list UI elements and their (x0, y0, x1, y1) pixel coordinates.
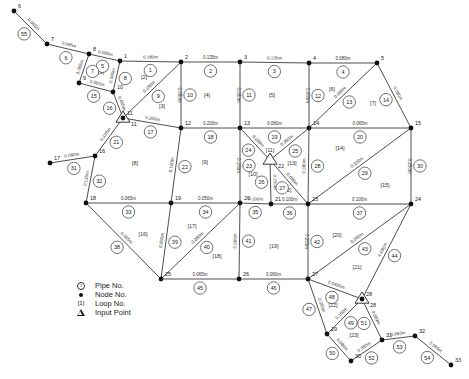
pipe-network-diagram: 0.180m0.135m0.135m0.080m0.080m0.065m0.06… (0, 0, 469, 379)
pipe-number-badge: 26 (255, 176, 267, 188)
pipe-number-badge: 15 (87, 90, 99, 102)
svg-text:47: 47 (306, 306, 312, 312)
pipe-number-badge: 22 (179, 160, 191, 172)
pipe-diameter-label: 0.050m (198, 196, 213, 201)
node-25 (159, 277, 164, 282)
pipe-number-badge: 21 (110, 136, 122, 148)
pipe-number-badge: 8 (119, 72, 131, 84)
pipe-diameter-label: 0.080m (349, 231, 364, 244)
loop-label: [7] (370, 100, 377, 106)
svg-text:52: 52 (368, 355, 374, 361)
node-18 (84, 201, 89, 206)
node-number-label: 12 (185, 120, 191, 126)
node-number-label: 26 (243, 271, 249, 277)
pipe-diameter-label: 0.100m (282, 197, 297, 202)
node-10 (111, 90, 116, 95)
node-14 (307, 126, 312, 131)
pipe-number-badge: 11 (243, 89, 255, 101)
pipe-28 (308, 128, 309, 204)
loop-label: [14] (335, 145, 345, 151)
svg-text:49: 49 (348, 320, 354, 326)
node-number-label: 9 (83, 75, 86, 81)
node-2 (179, 60, 184, 65)
loop-label: [16] (138, 231, 148, 237)
svg-text:44: 44 (391, 253, 397, 259)
loop-label: [23] (349, 332, 359, 338)
pipe-number-badge: 54 (421, 351, 433, 363)
node-number-label: 8 (93, 46, 96, 52)
pipe-35 (240, 203, 271, 204)
node-4 (307, 61, 312, 66)
pipe-diameter-label: 0.065m (428, 340, 443, 353)
node-number-label: 4 (313, 55, 316, 61)
svg-text:42: 42 (314, 239, 320, 245)
pipe-number-badge: 17 (144, 126, 156, 138)
node-1 (118, 59, 123, 64)
svg-text:51: 51 (361, 320, 367, 326)
pipe-number-badge: 32 (93, 175, 105, 187)
svg-text:12: 12 (315, 93, 321, 99)
pipe-number-badge: 16 (103, 102, 115, 114)
pipe-number-badge: 41 (242, 235, 254, 247)
node-26 (237, 277, 242, 282)
loop-label: [3] (159, 103, 166, 109)
pipe-diameter-label: 0.200m (145, 115, 161, 123)
pipe-diameter-label: 0.080m (266, 272, 281, 277)
pipe-diameter-label: 0.080m (335, 56, 350, 61)
svg-text:13: 13 (346, 99, 352, 105)
pipe-number-badge: 2 (204, 65, 216, 77)
svg-text:8: 8 (124, 75, 127, 81)
svg-text:50: 50 (329, 350, 335, 356)
legend: 1 Pipe No. Node No. [1] Loop No. Input P… (75, 281, 131, 317)
node-number-label: 15 (415, 120, 421, 126)
input-triangle-icon (75, 309, 87, 316)
pipe-number-badge: 4 (337, 66, 349, 78)
loop-label: [20] (332, 232, 342, 238)
svg-text:22: 22 (182, 164, 188, 170)
svg-text:2: 2 (209, 68, 212, 74)
pipe-diameter-label: 0.080m (98, 49, 114, 57)
loop-bracket-icon: [1] (75, 299, 87, 308)
node-number-label: 10 (117, 84, 123, 90)
node-19 (169, 201, 174, 206)
pipe-diameter-label: 0.135m (82, 171, 90, 187)
node-number-label: 5 (381, 55, 384, 61)
node-28 (360, 297, 365, 302)
node-32 (413, 334, 418, 339)
pipe-number-badge: 51 (358, 317, 370, 329)
pipe-number-badge: 9 (152, 90, 164, 102)
legend-node-no-label: Node No. (95, 290, 127, 299)
svg-text:35: 35 (252, 209, 258, 215)
pipe-number-badge: 52 (365, 352, 377, 364)
pipe-diameter-label: 0.065m (75, 59, 85, 75)
node-number-label: 11 (127, 110, 133, 116)
node-number-label: 33 (455, 357, 461, 363)
node-number-label: 17 (54, 155, 60, 161)
pipe-diameter-label: 0.250m (304, 234, 309, 249)
svg-text:27: 27 (279, 185, 285, 191)
svg-text:4: 4 (341, 69, 344, 75)
pipe-number-badge: 38 (111, 241, 123, 253)
input-points-layer: 112228 (116, 111, 376, 308)
legend-loop-no-label: Loop No. (95, 299, 125, 308)
pipe-number-badge: 10 (184, 89, 196, 101)
loop-label: [11] (266, 147, 275, 153)
pipe-diameter-label: 0.080m (377, 241, 388, 257)
node-number-label: 3 (244, 54, 247, 60)
pipe-diameter-label: 0.065m (192, 272, 207, 277)
pipe-diameter-label: 0.150m (236, 158, 241, 173)
svg-text:5: 5 (101, 63, 104, 69)
pipe-diameter-label: 0.200m (203, 121, 218, 126)
pipe-diameter-label: 0.080m (317, 297, 327, 313)
node-number-label: 13 (244, 120, 250, 126)
pipe-number-badge: 34 (199, 206, 211, 218)
svg-text:54: 54 (424, 355, 430, 361)
node-3 (238, 60, 243, 65)
svg-text:7: 7 (91, 68, 94, 74)
loop-label: [19] (269, 243, 279, 249)
pipe-number-badge: 1 (144, 64, 156, 76)
pipe-diameter-label: 0.080m (371, 310, 382, 326)
pipe-number-badge: 36 (283, 207, 295, 219)
pipe-number-badge: 30 (414, 160, 426, 172)
pipe-diameter-label: 0.135m (203, 55, 218, 60)
